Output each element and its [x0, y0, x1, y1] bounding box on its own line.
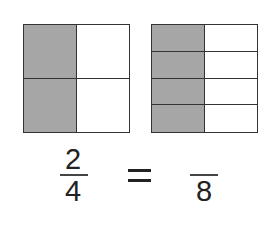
shaded-cell	[152, 25, 205, 52]
shaded-cell	[152, 79, 205, 106]
unshaded-cell	[77, 25, 130, 79]
shaded-cell	[24, 25, 77, 79]
left-numerator: 2	[58, 145, 88, 174]
unshaded-cell	[205, 79, 258, 106]
shaded-cell	[24, 79, 77, 133]
unshaded-cell	[205, 52, 258, 79]
unshaded-cell	[205, 25, 258, 52]
left-denominator: 4	[58, 177, 88, 206]
shaded-cell	[152, 105, 205, 132]
unshaded-cell	[77, 79, 130, 133]
fraction-model-eighths	[151, 24, 258, 133]
shaded-cell	[152, 52, 205, 79]
fraction-model-fourths	[23, 24, 130, 133]
unshaded-cell	[205, 105, 258, 132]
right-denominator: 8	[189, 177, 219, 206]
